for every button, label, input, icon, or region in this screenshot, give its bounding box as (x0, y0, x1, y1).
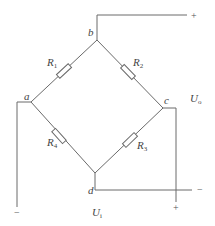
resistor-r1 (56, 64, 71, 79)
label-r2: R2 (132, 56, 144, 70)
wire-output-minus (95, 173, 192, 190)
label-output-voltage: Uo (190, 92, 202, 106)
bridge-circuit-diagram: b a c d R1 R2 R3 R4 Uo Ui + − + − (0, 0, 215, 226)
wire-output-plus (97, 15, 187, 40)
node-label-d: d (88, 184, 94, 196)
label-r1: R1 (46, 56, 58, 70)
label-r3: R3 (136, 139, 148, 153)
resistor-r3 (123, 133, 138, 148)
wire-input-minus (17, 102, 31, 207)
node-label-b: b (88, 26, 94, 38)
input-plus-sign: + (173, 202, 179, 213)
wire-input-plus (163, 108, 176, 202)
output-plus-sign: + (191, 10, 197, 21)
node-label-c: c (164, 94, 169, 106)
output-minus-sign: − (197, 184, 203, 195)
input-minus-sign: − (14, 207, 20, 218)
circuit-svg: b a c d R1 R2 R3 R4 Uo Ui + − + − (0, 0, 215, 226)
label-r4: R4 (46, 136, 58, 150)
label-input-voltage: Ui (92, 206, 102, 220)
node-label-a: a (24, 90, 30, 102)
